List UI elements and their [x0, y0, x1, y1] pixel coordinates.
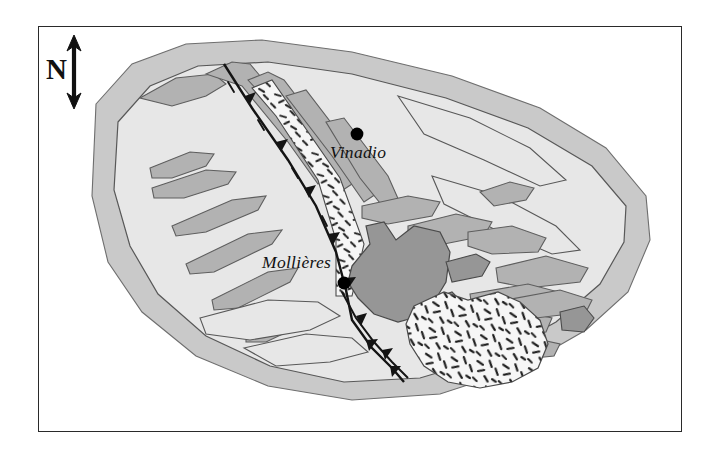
locality-dot-mollieres	[338, 277, 351, 290]
figure-page: N Vinadio Mollières	[0, 0, 716, 450]
geological-map	[0, 0, 716, 450]
locality-label-mollieres: Mollières	[262, 252, 331, 273]
locality-dot-vinadio	[351, 128, 364, 141]
north-arrow-label: N	[46, 55, 67, 84]
locality-label-vinadio: Vinadio	[330, 142, 386, 163]
